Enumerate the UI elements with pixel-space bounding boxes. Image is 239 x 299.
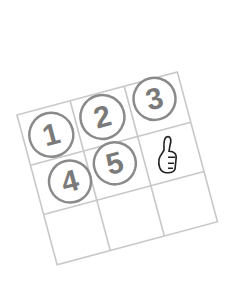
circled-number-3: 3 xyxy=(129,73,180,124)
circled-number-1: 1 xyxy=(24,108,78,162)
thumbs-up-icon xyxy=(159,137,176,173)
illustration: 1 2 3 4 5 xyxy=(0,0,239,299)
circled-number-4: 4 xyxy=(44,156,95,207)
circled-number-5: 5 xyxy=(89,138,140,189)
circled-number-2: 2 xyxy=(75,90,129,144)
